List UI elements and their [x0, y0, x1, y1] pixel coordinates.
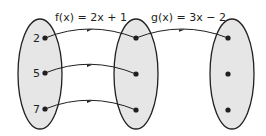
mapping-diagram: 2 5 7 f(x) = 2x + 1 g(x) = 3x − 2	[0, 0, 266, 136]
domain-element-label: 7	[33, 103, 40, 116]
range-point	[225, 35, 230, 40]
g-function-label: g(x) = 3x − 2	[151, 11, 226, 24]
intermediate-point	[133, 35, 138, 40]
range-point	[225, 107, 230, 112]
range-point	[225, 71, 230, 76]
domain-element-label: 2	[33, 32, 40, 45]
domain-element-label: 5	[33, 67, 40, 80]
intermediate-point	[133, 71, 138, 76]
range-set-ellipse	[210, 19, 254, 129]
domain-point	[42, 35, 47, 40]
domain-set-ellipse	[18, 19, 62, 129]
domain-point	[42, 106, 47, 111]
f-function-label: f(x) = 2x + 1	[55, 11, 127, 24]
intermediate-point	[133, 107, 138, 112]
domain-point	[42, 70, 47, 75]
